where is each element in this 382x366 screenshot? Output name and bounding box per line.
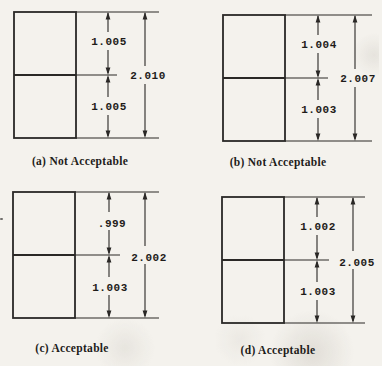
lower-dimension-value: 1.005 <box>91 101 127 113</box>
overall-dimension-value: 2.007 <box>340 73 376 85</box>
upper-dimension-value: 1.004 <box>301 39 337 51</box>
overall-dimension-value: 2.005 <box>339 257 375 269</box>
lower-dimension-value: 1.003 <box>92 282 128 294</box>
overall-dimension-value: 2.002 <box>131 252 167 264</box>
panel-a-caption: (a) Not Acceptable <box>32 155 128 167</box>
panel-a-drawing: 1.005 1.005 2.010 <box>13 11 173 141</box>
lower-dimension-value: 1.003 <box>300 286 336 298</box>
upper-dimension-value: .999 <box>98 218 126 230</box>
upper-dimension-value: 1.005 <box>91 36 127 48</box>
panel-b: 1.004 1.003 2.007 <box>222 14 382 144</box>
panel-d: 1.002 1.003 2.005 <box>221 196 381 326</box>
panel-b-drawing: 1.004 1.003 2.007 <box>222 14 382 144</box>
panel-c-caption: (c) Acceptable <box>35 342 109 354</box>
panel-c-drawing: .999 1.003 2.002 <box>12 191 172 321</box>
panel-d-caption: (d) Acceptable <box>241 344 316 356</box>
upper-dimension-value: 1.002 <box>300 221 336 233</box>
lower-dimension-value: 1.003 <box>301 104 337 116</box>
overall-dimension-value: 2.010 <box>130 70 166 82</box>
panel-d-drawing: 1.002 1.003 2.005 <box>221 196 381 326</box>
scan-speck <box>0 218 3 220</box>
panel-c: .999 1.003 2.002 <box>12 191 172 321</box>
panel-b-caption: (b) Not Acceptable <box>230 156 327 168</box>
panel-a: 1.005 1.005 2.010 <box>13 11 173 141</box>
